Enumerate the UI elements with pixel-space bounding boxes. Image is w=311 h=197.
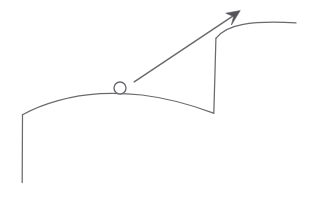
sketch-canvas [0, 0, 311, 197]
trajectory-arrow-shaft [134, 14, 236, 82]
upper-plateau-curve [216, 22, 296, 38]
riser-vertical-line [214, 38, 216, 113]
trajectory-arrow-head [226, 11, 240, 25]
sketch-drawing [0, 0, 311, 197]
lower-hill-curve [23, 93, 214, 115]
ball-circle [114, 82, 126, 94]
